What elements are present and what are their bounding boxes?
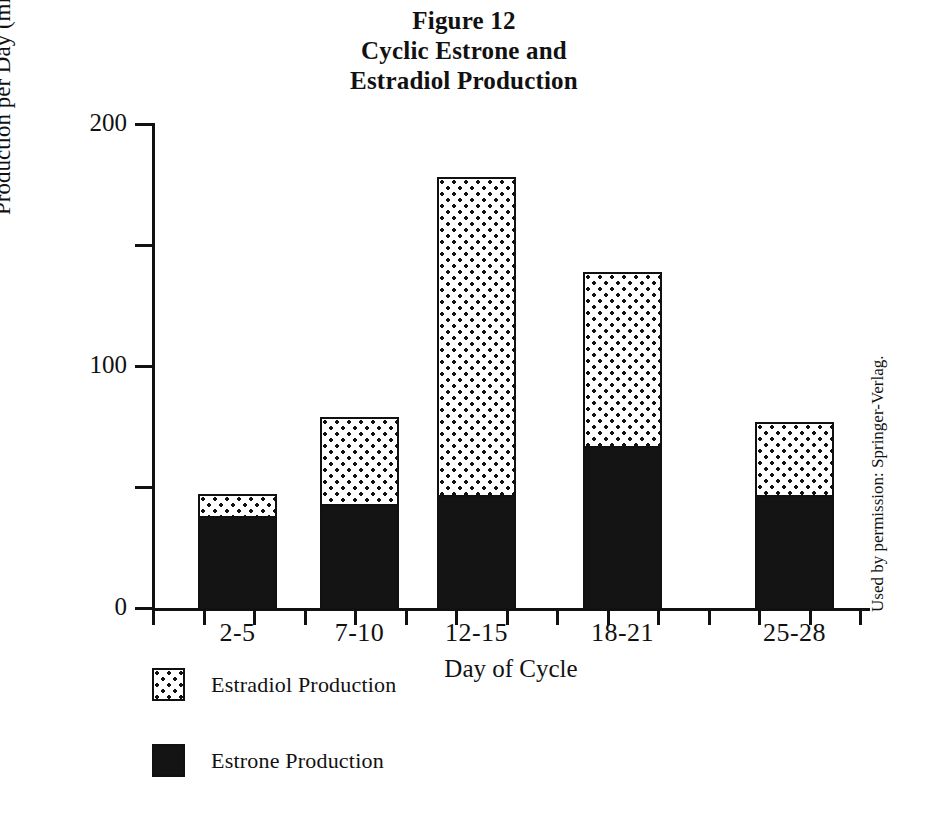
bar-segment-estradiol[interactable] [320, 417, 399, 507]
bar-segment-estradiol[interactable] [583, 272, 662, 449]
bar-group[interactable] [320, 417, 399, 608]
legend-swatch-estrone-icon [152, 744, 185, 777]
bar-segment-estradiol[interactable] [198, 494, 277, 518]
figure-title-line-2: Cyclic Estrone and [0, 36, 928, 66]
plot-area: 0100200 [152, 124, 870, 608]
legend-label: Estradiol Production [211, 672, 396, 698]
y-tick-major [135, 123, 155, 126]
y-tick-major [135, 365, 155, 368]
legend-label: Estrone Production [211, 748, 384, 774]
bar-segment-estrone[interactable] [437, 497, 516, 608]
legend-item[interactable]: Estrone Production [152, 744, 384, 777]
x-category-label: 25-28 [763, 618, 826, 648]
bar-group[interactable] [437, 177, 516, 608]
x-axis-category-labels: 2-57-1012-1518-2125-28 [152, 618, 870, 654]
figure-title-line-3: Estradiol Production [0, 66, 928, 96]
legend-item[interactable]: Estradiol Production [152, 668, 396, 701]
legend-swatch-estradiol-icon [152, 668, 185, 701]
y-tick-label: 100 [12, 352, 127, 377]
figure-title-line-1: Figure 12 [0, 6, 928, 36]
bar-group[interactable] [755, 422, 834, 608]
bar-group[interactable] [583, 272, 662, 608]
y-tick-minor [135, 486, 155, 489]
bar-segment-estrone[interactable] [198, 518, 277, 608]
x-category-label: 7-10 [335, 618, 385, 648]
bar-segment-estradiol[interactable] [437, 177, 516, 496]
x-category-label: 12-15 [445, 618, 508, 648]
y-tick-label: 0 [12, 594, 127, 619]
bar-group[interactable] [198, 494, 277, 608]
permission-credit: Used by permission: Springer-Verlag. [868, 355, 888, 612]
figure-title: Figure 12 Cyclic Estrone and Estradiol P… [0, 6, 928, 96]
x-category-label: 18-21 [591, 618, 654, 648]
bar-segment-estrone[interactable] [755, 497, 834, 608]
x-category-label: 2-5 [219, 618, 255, 648]
y-tick-minor [135, 244, 155, 247]
x-axis-line [152, 608, 870, 611]
y-tick-label: 200 [12, 110, 127, 135]
bar-segment-estrone[interactable] [583, 448, 662, 608]
y-axis-title: Production per Day (micrograms) [0, 0, 16, 215]
bar-segment-estrone[interactable] [320, 506, 399, 608]
bar-segment-estradiol[interactable] [755, 422, 834, 497]
